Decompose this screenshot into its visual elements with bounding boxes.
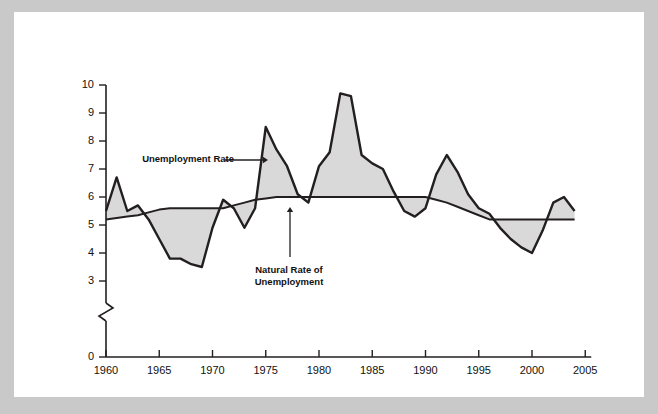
- x-tick-label: 2005: [565, 364, 605, 376]
- y-tick-label: 10: [74, 78, 94, 90]
- y-tick-label: 0: [74, 350, 94, 362]
- natural-rate-annotation-line1: Natural Rate of: [255, 264, 323, 275]
- y-tick-label: 6: [74, 190, 94, 202]
- y-tick-label: 3: [74, 274, 94, 286]
- x-tick-label: 1990: [406, 364, 446, 376]
- x-tick-label: 1975: [246, 364, 286, 376]
- x-tick-label: 1970: [193, 364, 233, 376]
- x-tick-label: 1995: [459, 364, 499, 376]
- unemployment-chart: [14, 12, 644, 397]
- y-tick-label: 4: [74, 246, 94, 258]
- x-tick-label: 1980: [299, 364, 339, 376]
- x-tick-label: 2000: [512, 364, 552, 376]
- x-tick-label: 1960: [86, 364, 126, 376]
- natural-rate-annotation-line2: Unemployment: [255, 276, 324, 287]
- y-tick-label: 7: [74, 162, 94, 174]
- y-tick-label: 9: [74, 106, 94, 118]
- unemployment-rate-annotation: Unemployment Rate: [119, 153, 234, 165]
- natural-rate-annotation: Natural Rate ofUnemployment: [229, 264, 349, 288]
- chart-frame: UnemploymentRate (%) 1098765430 19601965…: [14, 12, 644, 397]
- x-tick-label: 1985: [352, 364, 392, 376]
- y-tick-label: 8: [74, 134, 94, 146]
- x-tick-label: 1965: [139, 364, 179, 376]
- y-tick-label: 5: [74, 218, 94, 230]
